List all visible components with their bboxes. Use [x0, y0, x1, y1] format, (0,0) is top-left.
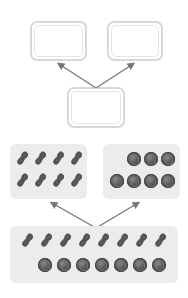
whole-panel — [10, 226, 178, 283]
walnut-icon — [127, 152, 141, 166]
peanut-part-panel — [10, 144, 87, 199]
walnut-icon — [110, 174, 124, 188]
walnut-icon — [144, 152, 158, 166]
peanut-icon — [52, 150, 64, 168]
peanut-icon — [116, 232, 128, 250]
walnut-icon — [161, 152, 175, 166]
peanut-icon — [52, 172, 64, 190]
walnut-icon — [144, 174, 158, 188]
peanut-icon — [40, 232, 52, 250]
walnut-icon — [161, 174, 175, 188]
walnut-icon — [38, 258, 52, 272]
peanut-icon — [154, 232, 166, 250]
arrow-up-right-icon — [96, 64, 133, 88]
peanut-icon — [70, 150, 82, 168]
walnut-icon — [76, 258, 90, 272]
peanut-icon — [59, 232, 71, 250]
arrow-up-right-icon — [96, 203, 138, 228]
walnut-icon — [133, 258, 147, 272]
walnut-icon — [95, 258, 109, 272]
peanut-icon — [97, 232, 109, 250]
peanut-icon — [21, 232, 33, 250]
walnut-icon — [57, 258, 71, 272]
walnut-icon — [152, 258, 166, 272]
walnut-icon — [114, 258, 128, 272]
arrow-up-left-icon — [52, 203, 96, 228]
walnut-icon — [127, 174, 141, 188]
arrow-up-left-icon — [59, 64, 96, 88]
peanut-icon — [70, 172, 82, 190]
walnut-part-panel — [103, 144, 180, 199]
peanut-icon — [34, 172, 46, 190]
peanut-icon — [16, 150, 28, 168]
peanut-icon — [135, 232, 147, 250]
peanut-icon — [78, 232, 90, 250]
peanut-icon — [16, 172, 28, 190]
top-arrows — [59, 64, 133, 88]
bottom-arrows — [52, 203, 138, 228]
peanut-icon — [34, 150, 46, 168]
